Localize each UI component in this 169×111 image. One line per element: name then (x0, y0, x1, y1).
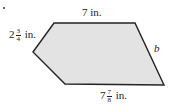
left-side-whole: 2 (9, 28, 15, 40)
bottom-side-whole: 7 (100, 89, 106, 101)
right-side-label: b (154, 43, 160, 54)
bottom-side-fraction: 78 (107, 89, 113, 104)
top-side-value: 7 (82, 6, 88, 18)
left-side-unit: in. (25, 28, 36, 40)
bottom-side-denominator: 8 (107, 97, 113, 104)
bottom-side-label: 778 in. (100, 89, 127, 104)
top-side-unit: in. (90, 6, 101, 18)
left-side-label: 234 in. (9, 28, 36, 43)
left-side-fraction: 34 (16, 28, 22, 43)
left-side-denominator: 4 (16, 36, 22, 43)
right-side-variable: b (154, 42, 160, 54)
bottom-side-unit: in. (116, 89, 127, 101)
top-side-label: 7 in. (82, 7, 102, 18)
pentagon-shape (33, 23, 164, 85)
